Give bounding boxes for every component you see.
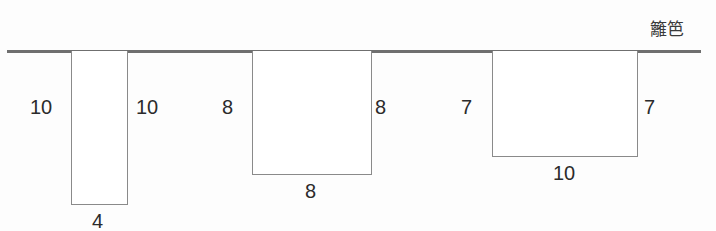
pen-1-left-dimension-label: 10: [30, 97, 52, 117]
fence-pen-diagram: 籬笆 10 10 4 8 8 8 7 7 10: [0, 0, 716, 231]
pen-rectangle-2: [252, 51, 372, 175]
pen-2-left-dimension-label: 8: [222, 97, 233, 117]
pen-2-right-dimension-label: 8: [375, 97, 386, 117]
fence-caption-label: 籬笆: [650, 21, 684, 38]
pen-1-bottom-dimension-label: 4: [92, 211, 103, 231]
pen-1-right-dimension-label: 10: [136, 97, 158, 117]
pen-3-bottom-dimension-label: 10: [553, 163, 575, 183]
pen-rectangle-1: [71, 51, 128, 205]
pen-rectangle-3: [492, 51, 638, 157]
pen-3-right-dimension-label: 7: [644, 97, 655, 117]
pen-3-left-dimension-label: 7: [461, 97, 472, 117]
pen-2-bottom-dimension-label: 8: [305, 181, 316, 201]
